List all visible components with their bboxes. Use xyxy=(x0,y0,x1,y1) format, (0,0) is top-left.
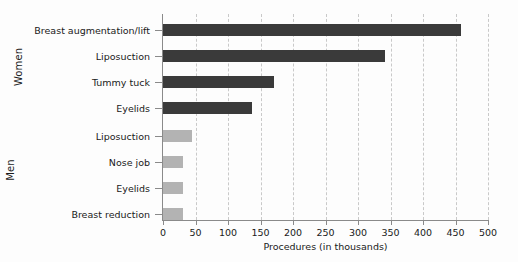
x-axis-tick xyxy=(228,221,229,225)
gridline xyxy=(228,14,229,220)
group-label-men: Men xyxy=(0,128,22,212)
gridline xyxy=(456,14,457,220)
bar xyxy=(163,24,461,36)
category-label: Breast reduction xyxy=(24,209,150,221)
x-axis-tick xyxy=(196,221,197,225)
x-axis-tick xyxy=(456,221,457,225)
y-axis-tick xyxy=(155,56,162,57)
x-axis-tick xyxy=(423,221,424,225)
gridline xyxy=(488,14,489,220)
x-axis-tick xyxy=(163,221,164,225)
gridline xyxy=(261,14,262,220)
category-label: Nose job xyxy=(24,157,150,169)
x-axis-tick xyxy=(261,221,262,225)
x-axis-title: Procedures (in thousands) xyxy=(163,241,488,252)
gridline xyxy=(196,14,197,220)
category-label: Liposuction xyxy=(24,51,150,63)
y-axis-tick xyxy=(155,188,162,189)
gridline xyxy=(293,14,294,220)
gridline xyxy=(326,14,327,220)
category-label: Liposuction xyxy=(24,131,150,143)
y-axis-tick xyxy=(155,214,162,215)
x-axis-tick xyxy=(488,221,489,225)
bar xyxy=(163,130,192,142)
gridline xyxy=(423,14,424,220)
x-axis-tick xyxy=(358,221,359,225)
horizontal-bar-chart: Women Men Breast augmentation/liftLiposu… xyxy=(0,0,518,262)
category-label: Eyelids xyxy=(24,183,150,195)
bar xyxy=(163,182,183,194)
category-label: Eyelids xyxy=(24,103,150,115)
y-axis-tick xyxy=(155,108,162,109)
bar xyxy=(163,208,183,220)
bar xyxy=(163,102,252,114)
y-axis-tick xyxy=(155,30,162,31)
x-axis-tick-label: 500 xyxy=(468,227,508,238)
x-axis-tick xyxy=(293,221,294,225)
y-axis-tick xyxy=(155,82,162,83)
group-label-women: Women xyxy=(0,22,22,112)
bar xyxy=(163,156,183,168)
category-label: Tummy tuck xyxy=(24,77,150,89)
y-axis-tick xyxy=(155,162,162,163)
bar xyxy=(163,50,385,62)
x-axis-tick xyxy=(391,221,392,225)
bar xyxy=(163,76,274,88)
category-label: Breast augmentation/lift xyxy=(24,25,150,37)
x-axis-tick xyxy=(326,221,327,225)
gridline xyxy=(358,14,359,220)
gridline xyxy=(391,14,392,220)
y-axis-tick xyxy=(155,136,162,137)
plot-area xyxy=(163,14,488,220)
